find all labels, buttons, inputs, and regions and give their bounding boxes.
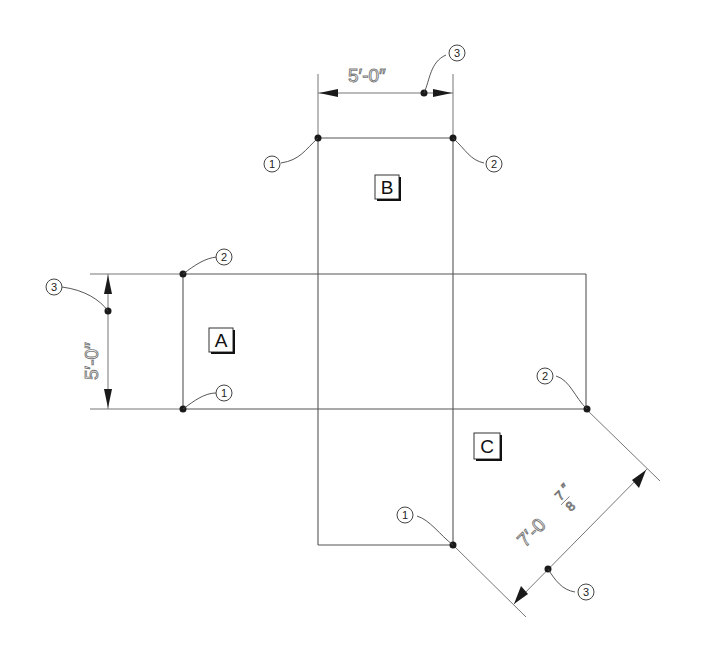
callout-a2: 2	[216, 249, 232, 265]
svg-text:1: 1	[402, 509, 408, 521]
callout-leaders	[62, 55, 587, 592]
arrow-right-icon	[433, 89, 452, 97]
arrow-left-icon	[319, 89, 338, 97]
top-dim-text: 5′-0″	[348, 65, 386, 86]
svg-text:2: 2	[491, 158, 497, 170]
svg-text:3: 3	[583, 586, 589, 598]
arrow-up-icon	[104, 275, 112, 294]
arrow-upper-icon	[632, 470, 646, 488]
dimension-top: 5′-0″	[318, 65, 453, 97]
callout-a3: 3	[46, 279, 62, 295]
svg-text:2: 2	[542, 370, 548, 382]
arrow-down-icon	[104, 389, 112, 408]
dimension-left: 5′-0″	[81, 274, 112, 409]
region-label-c: C	[480, 436, 494, 457]
arrow-lower-icon	[514, 586, 528, 604]
callout-b1: 1	[264, 156, 280, 172]
drawing-canvas: 5′-0″ 5′-0″ 7′-0 7 8 ″ A B C	[0, 0, 701, 648]
svg-text:3: 3	[51, 281, 57, 293]
callout-c1: 1	[397, 507, 413, 523]
callout-c2: 2	[537, 368, 553, 384]
region-tag-a: A	[209, 328, 234, 353]
left-dim-text: 5′-0″	[81, 342, 102, 380]
diag-dim-extension-lower	[453, 545, 526, 617]
svg-text:3: 3	[454, 47, 460, 59]
geometry-lines	[90, 74, 660, 617]
callout-b3: 3	[449, 45, 465, 61]
region-tag-c: C	[474, 433, 501, 460]
callout-c3: 3	[578, 584, 594, 600]
diag-dim-extension-upper	[586, 409, 660, 481]
point-markers	[105, 90, 591, 573]
region-tag-b: B	[375, 175, 400, 200]
callout-b2: 2	[486, 156, 502, 172]
dimension-diagonal: 7′-0 7 8 ″	[509, 469, 647, 604]
diag-dim-text: 7′-0	[513, 514, 550, 551]
callout-a1: 1	[216, 385, 232, 401]
region-label-a: A	[215, 330, 228, 351]
region-label-b: B	[381, 177, 394, 198]
svg-text:1: 1	[221, 387, 227, 399]
diag-dim-frac-den: 8	[562, 498, 578, 514]
svg-text:1: 1	[269, 158, 275, 170]
svg-text:2: 2	[221, 251, 227, 263]
